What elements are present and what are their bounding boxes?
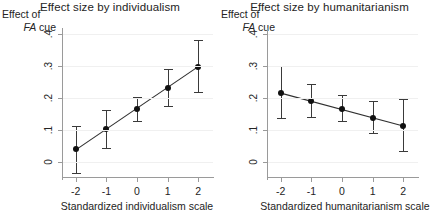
gridline-y xyxy=(268,98,418,99)
x-tick xyxy=(106,178,107,182)
y-tick-label: .1 xyxy=(249,122,259,138)
x-tick xyxy=(76,178,77,182)
data-point xyxy=(370,115,376,121)
plot-area-humanitarianism: 0.1.2.3.4 -2-1012 Standardized humanitar… xyxy=(267,28,417,178)
y-tick-label: .4 xyxy=(44,26,54,42)
y-tick-label: .2 xyxy=(44,90,54,106)
y-tick xyxy=(58,130,62,131)
y-tick-label: .1 xyxy=(44,122,54,138)
chart-panel-individualism: Effect size by individualism Effect of F… xyxy=(0,0,219,224)
y-axis-caption-line1: Effect of xyxy=(221,8,275,21)
error-bar-cap-upper xyxy=(102,110,111,111)
y-tick-label: .2 xyxy=(249,90,259,106)
x-tick xyxy=(281,178,282,182)
x-tick-label: 0 xyxy=(332,186,352,197)
gridline-y xyxy=(268,34,418,35)
y-axis-caption-italic: FA xyxy=(24,21,37,33)
x-tick-label: -2 xyxy=(66,186,86,197)
y-tick-label: .4 xyxy=(249,26,259,42)
x-axis-title-humanitarianism: Standardized humanitarianism scale xyxy=(225,200,439,212)
y-axis-line xyxy=(62,28,63,180)
y-tick xyxy=(58,66,62,67)
x-tick-label: 1 xyxy=(158,186,178,197)
gridline-y xyxy=(268,162,418,163)
x-tick xyxy=(311,178,312,182)
error-bar-cap-lower xyxy=(102,148,111,149)
error-bar-cap-lower xyxy=(399,151,408,152)
gridline-y xyxy=(63,162,213,163)
data-point xyxy=(400,123,406,129)
gridline-y xyxy=(268,66,418,67)
error-bar-cap-lower xyxy=(307,117,316,118)
y-tick xyxy=(263,98,267,99)
gridline-y xyxy=(63,66,213,67)
gridline-y xyxy=(63,130,213,131)
y-tick-label: 0 xyxy=(44,154,54,170)
gridline-y xyxy=(63,98,213,99)
figure-root: Effect size by individualism Effect of F… xyxy=(0,0,439,224)
data-point xyxy=(73,146,79,152)
y-axis-caption-line1: Effect of xyxy=(2,8,56,21)
x-axis-line xyxy=(267,177,419,178)
y-tick xyxy=(58,34,62,35)
x-tick-label: -2 xyxy=(271,186,291,197)
data-point xyxy=(165,85,171,91)
y-tick-label: 0 xyxy=(249,154,259,170)
y-tick-label: .3 xyxy=(44,58,54,74)
gridline-y xyxy=(268,130,418,131)
error-bar-cap-upper xyxy=(338,95,347,96)
error-bar-cap-lower xyxy=(338,121,347,122)
error-bar-cap-upper xyxy=(307,84,316,85)
error-bar-cap-upper xyxy=(194,40,203,41)
error-bar-cap-lower xyxy=(277,118,286,119)
y-tick xyxy=(263,162,267,163)
data-point xyxy=(339,106,345,112)
x-tick-label: -1 xyxy=(301,186,321,197)
x-tick-label: 0 xyxy=(127,186,147,197)
x-tick-label: -1 xyxy=(96,186,116,197)
x-tick xyxy=(373,178,374,182)
x-tick-label: 2 xyxy=(188,186,208,197)
x-tick xyxy=(403,178,404,182)
data-point xyxy=(134,106,140,112)
data-point xyxy=(308,98,314,104)
x-tick-label: 2 xyxy=(393,186,413,197)
chart-panel-humanitarianism: Effect size by humanitarianism Effect of… xyxy=(219,0,439,224)
error-bar-cap-lower xyxy=(369,133,378,134)
plot-area-individualism: 0.1.2.3.4 -2-1012 Standardized individua… xyxy=(62,28,212,178)
error-bar-cap-upper xyxy=(164,69,173,70)
x-tick xyxy=(342,178,343,182)
x-axis-line xyxy=(62,177,214,178)
error-bar-cap-lower xyxy=(164,106,173,107)
gridline-y xyxy=(63,34,213,35)
x-tick xyxy=(168,178,169,182)
error-bar-cap-lower xyxy=(194,92,203,93)
error-bar-cap-lower xyxy=(133,121,142,122)
error-bar-cap-upper xyxy=(72,126,81,127)
y-tick xyxy=(263,66,267,67)
y-tick xyxy=(58,162,62,163)
y-axis-line xyxy=(267,28,268,180)
y-tick-label: .3 xyxy=(249,58,259,74)
x-tick-label: 1 xyxy=(363,186,383,197)
error-bar-cap-upper xyxy=(369,101,378,102)
data-point xyxy=(278,90,284,96)
x-tick xyxy=(137,178,138,182)
y-tick xyxy=(263,130,267,131)
x-tick xyxy=(198,178,199,182)
error-bar-cap-lower xyxy=(72,173,81,174)
y-tick xyxy=(263,34,267,35)
y-tick xyxy=(58,98,62,99)
error-bar-cap-upper xyxy=(399,99,408,100)
